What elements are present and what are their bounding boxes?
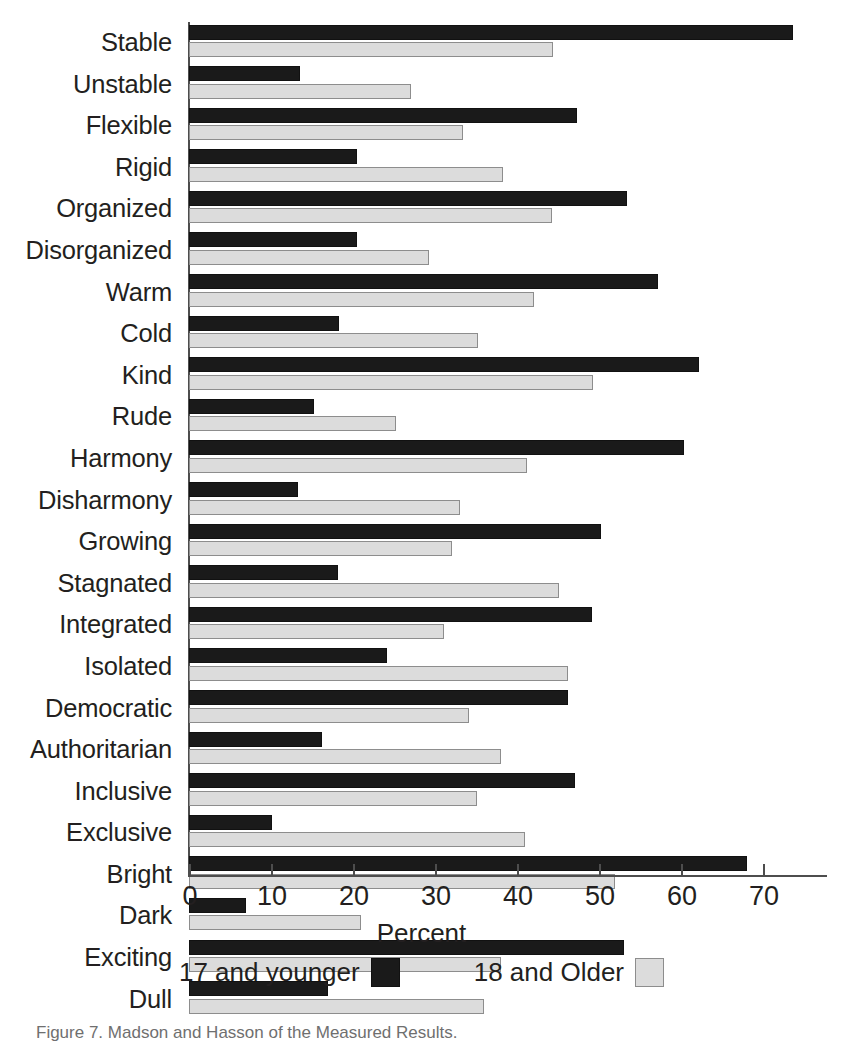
x-tick-label: 20 xyxy=(339,880,369,912)
category-label: Growing xyxy=(0,521,183,563)
bar-group xyxy=(183,147,843,189)
x-tick-label: 50 xyxy=(585,880,615,912)
bar-younger xyxy=(189,648,387,663)
category-label: Exclusive xyxy=(0,812,183,854)
x-axis-line xyxy=(189,875,827,877)
x-tick xyxy=(353,864,355,876)
bar-older xyxy=(189,416,396,431)
bar-younger xyxy=(189,607,592,622)
bar-group xyxy=(183,355,843,397)
legend-item[interactable]: 18 and Older xyxy=(474,957,664,988)
bar-row: Rigid xyxy=(0,147,843,189)
x-tick xyxy=(681,864,683,876)
bar-row: Exclusive xyxy=(0,812,843,854)
bar-younger xyxy=(189,108,577,123)
bar-older xyxy=(189,208,552,223)
legend-swatch-gray xyxy=(635,958,664,987)
bar-row: Flexible xyxy=(0,105,843,147)
bar-row: Organized xyxy=(0,188,843,230)
bar-younger xyxy=(189,565,338,580)
category-label: Harmony xyxy=(0,438,183,480)
category-label: Kind xyxy=(0,355,183,397)
bar-row: Integrated xyxy=(0,604,843,646)
bar-group xyxy=(183,188,843,230)
x-tick-label: 70 xyxy=(749,880,779,912)
bar-younger xyxy=(189,482,298,497)
bar-group xyxy=(183,688,843,730)
bar-group xyxy=(183,521,843,563)
bar-row: Democratic xyxy=(0,688,843,730)
bar-older xyxy=(189,749,501,764)
bar-group xyxy=(183,313,843,355)
bar-younger xyxy=(189,191,627,206)
x-tick xyxy=(599,864,601,876)
category-label: Authoritarian xyxy=(0,729,183,771)
bar-younger xyxy=(189,357,699,372)
bar-older xyxy=(189,333,478,348)
category-label: Organized xyxy=(0,188,183,230)
category-label: Isolated xyxy=(0,646,183,688)
bar-row: Warm xyxy=(0,272,843,314)
bar-younger xyxy=(189,274,658,289)
bar-older xyxy=(189,791,477,806)
x-tick-label: 60 xyxy=(667,880,697,912)
bar-older xyxy=(189,125,463,140)
category-label: Cold xyxy=(0,313,183,355)
bar-younger xyxy=(189,399,314,414)
bar-row: Stagnated xyxy=(0,563,843,605)
bar-row: Stable xyxy=(0,22,843,64)
bar-row: Growing xyxy=(0,521,843,563)
bar-row: Isolated xyxy=(0,646,843,688)
category-label: Disorganized xyxy=(0,230,183,272)
bar-younger xyxy=(189,316,339,331)
plot-area: StableUnstableFlexibleRigidOrganizedDiso… xyxy=(0,0,843,880)
legend-swatch-black xyxy=(371,958,400,987)
bar-row: Kind xyxy=(0,355,843,397)
bar-older xyxy=(189,458,527,473)
bar-older xyxy=(189,84,411,99)
legend-label: 17 and younger xyxy=(179,957,360,988)
category-label: Warm xyxy=(0,272,183,314)
bar-row: Inclusive xyxy=(0,771,843,813)
bar-group xyxy=(183,604,843,646)
bar-younger xyxy=(189,232,357,247)
bar-group xyxy=(183,563,843,605)
category-label: Rigid xyxy=(0,147,183,189)
bar-group xyxy=(183,22,843,64)
category-label: Bright xyxy=(0,854,183,896)
bar-group xyxy=(183,64,843,106)
legend-label: 18 and Older xyxy=(474,957,624,988)
x-tick xyxy=(517,864,519,876)
x-tick-label: 30 xyxy=(421,880,451,912)
bar-group xyxy=(183,812,843,854)
bar-younger xyxy=(189,149,357,164)
bar-younger xyxy=(189,815,272,830)
bar-group xyxy=(183,480,843,522)
bar-older xyxy=(189,666,568,681)
bar-group xyxy=(183,438,843,480)
category-label: Inclusive xyxy=(0,771,183,813)
category-label: Flexible xyxy=(0,105,183,147)
category-label: Stable xyxy=(0,22,183,64)
bar-younger xyxy=(189,898,246,913)
bar-younger xyxy=(189,66,300,81)
bar-younger xyxy=(189,25,793,40)
bar-row: Authoritarian xyxy=(0,729,843,771)
legend-item[interactable]: 17 and younger xyxy=(179,957,400,988)
bar-younger xyxy=(189,524,601,539)
x-tick xyxy=(763,864,765,876)
bar-group xyxy=(183,646,843,688)
bar-younger xyxy=(189,773,575,788)
bar-group xyxy=(183,396,843,438)
bar-older xyxy=(189,167,503,182)
bar-row: Disorganized xyxy=(0,230,843,272)
bar-group xyxy=(183,230,843,272)
category-label: Disharmony xyxy=(0,480,183,522)
bar-younger xyxy=(189,690,568,705)
bar-older xyxy=(189,500,460,515)
x-tick xyxy=(435,864,437,876)
bar-older xyxy=(189,250,429,265)
bar-older xyxy=(189,42,553,57)
bar-row: Rude xyxy=(0,396,843,438)
